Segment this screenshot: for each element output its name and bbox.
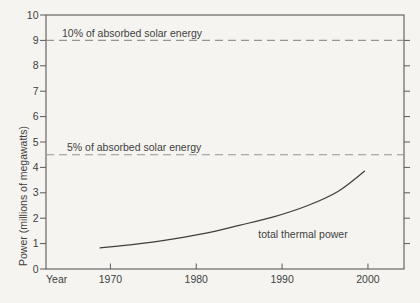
y-axis-title: Power (millions of megawatts): [17, 126, 29, 266]
y-tick-label: 9: [33, 34, 39, 46]
x-tick-label: 2000: [356, 273, 380, 285]
y-tick-label: 8: [33, 59, 39, 71]
y-tick-label: 2: [33, 212, 39, 224]
y-tick-label: 3: [33, 186, 39, 198]
ref-line-label-5pct: 5% of absorbed solar energy: [67, 141, 202, 153]
ref-line-label-10pct: 10% of absorbed solar energy: [62, 27, 203, 39]
y-tick-label: 0: [33, 263, 39, 275]
x-tick-label: 1980: [185, 273, 209, 285]
y-tick-label: 6: [33, 110, 39, 122]
y-tick-label: 4: [33, 161, 39, 173]
x-tick-label: 1990: [270, 273, 294, 285]
series-label-total-thermal-power: total thermal power: [258, 228, 348, 240]
y-tick-label: 7: [33, 85, 39, 97]
y-tick-label: 5: [33, 136, 39, 148]
y-tick-label: 1: [33, 237, 39, 249]
thermal-power-chart: 0123456789101970198019902000 Power (mill…: [0, 0, 420, 303]
x-tick-label: 1970: [99, 273, 123, 285]
y-tick-label: 10: [27, 9, 39, 21]
x-axis-title: Year: [46, 273, 68, 285]
figure-container: 0123456789101970198019902000 Power (mill…: [0, 0, 420, 303]
